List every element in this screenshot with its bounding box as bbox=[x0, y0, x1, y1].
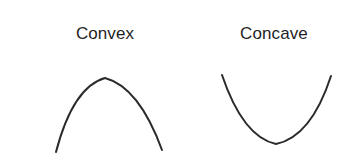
convex-curve-icon bbox=[56, 78, 162, 152]
convex-concave-figure: Convex Concave bbox=[0, 0, 345, 153]
concave-label: Concave bbox=[214, 24, 334, 44]
curves-canvas bbox=[0, 0, 345, 153]
convex-label: Convex bbox=[45, 24, 165, 44]
concave-curve-icon bbox=[222, 75, 331, 144]
